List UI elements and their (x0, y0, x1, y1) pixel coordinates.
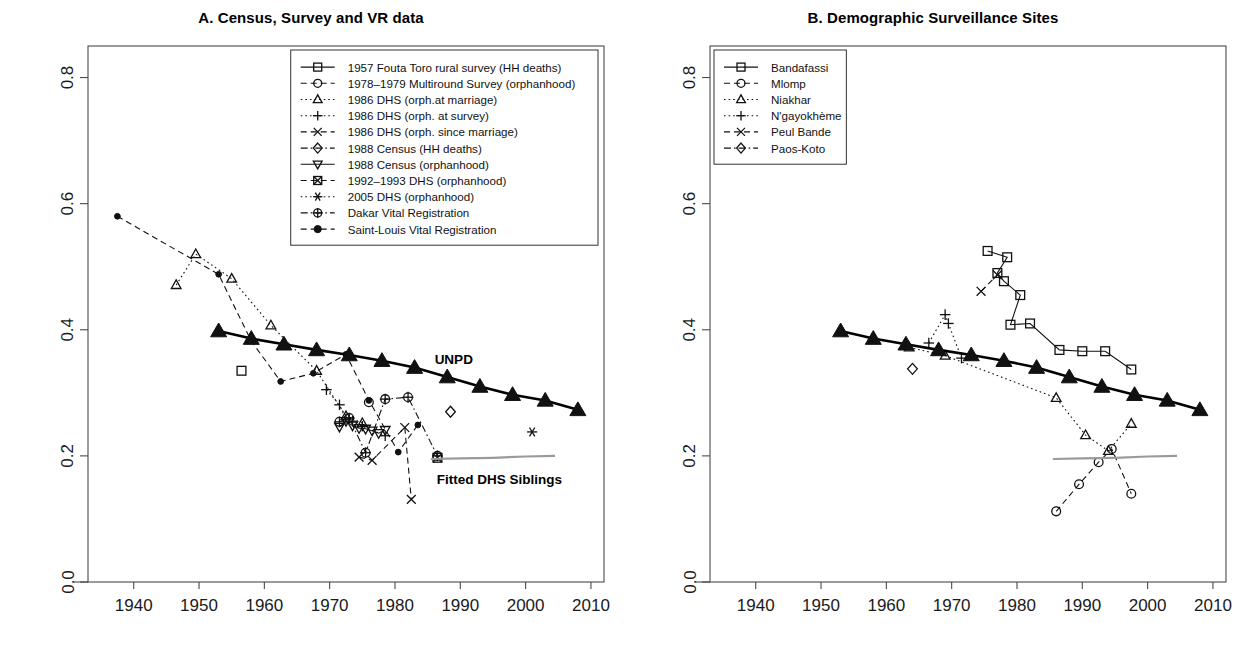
y-tick-label: 0.0 (681, 570, 700, 594)
series-paos-koto (908, 363, 918, 374)
panel-b: B. Demographic Surveillance Sites 194019… (622, 0, 1244, 657)
x-tick-label: 1940 (115, 596, 153, 615)
legend-item-label: Peul Bande (771, 125, 831, 138)
data-point-saint-louis-vital-registration (278, 379, 284, 385)
legend-item-label: 1988 Census (HH deaths) (348, 142, 482, 155)
y-tick-label: 0.8 (681, 66, 700, 90)
unpd-label: UNPD (435, 352, 474, 367)
series-unpd (211, 323, 586, 416)
data-point-1957-fouta-toro-rural-survey-hh-deaths (237, 366, 246, 375)
data-point-paos-koto (908, 363, 918, 374)
panel-a: A. Census, Survey and VR data 1940195019… (0, 0, 622, 657)
y-tick-label: 0.0 (59, 570, 78, 594)
y-tick-label: 0.2 (681, 444, 700, 468)
fitted-dhs-siblings-label: Fitted DHS Siblings (437, 472, 562, 487)
x-tick-label: 1990 (441, 596, 479, 615)
legend-item-label: 1992–1993 DHS (orphanhood) (348, 174, 507, 187)
panel-b-plot: 194019501960197019801990200020100.00.20.… (622, 0, 1244, 657)
x-tick-label: 2000 (507, 596, 545, 615)
legend: 1957 Fouta Toro rural survey (HH deaths)… (291, 50, 598, 245)
series-line (841, 331, 1200, 410)
series-unpd (833, 323, 1208, 416)
data-point-1986-dhs-orph-since-marriage (407, 495, 416, 504)
x-tick-label: 1940 (737, 596, 775, 615)
legend: BandafassiMlompNiakharN'gayokhèmePeul Ba… (714, 50, 846, 164)
legend-item-label: 2005 DHS (orphanhood) (348, 190, 474, 203)
legend-item-n-gayokh-me[interactable]: N'gayokhème (724, 109, 842, 122)
x-tick-label: 2010 (572, 596, 610, 615)
legend-key-marker (314, 226, 321, 233)
legend-item-label: Dakar Vital Registration (348, 206, 470, 219)
legend-item-label: Saint-Louis Vital Registration (348, 223, 497, 236)
data-point-saint-louis-vital-registration (216, 271, 222, 277)
legend-item-label: Paos-Koto (771, 142, 825, 155)
legend-item-label: 1988 Census (orphanhood) (348, 158, 489, 171)
x-tick-label: 1980 (376, 596, 414, 615)
x-tick-label: 2010 (1194, 596, 1232, 615)
x-tick-label: 1960 (867, 596, 905, 615)
y-tick-label: 0.4 (59, 318, 78, 342)
data-point-dakar-vital-registration (360, 447, 371, 458)
legend-item-label: Bandafassi (771, 61, 828, 74)
x-tick-label: 1960 (245, 596, 283, 615)
x-tick-label: 1970 (311, 596, 349, 615)
data-point-dakar-vital-registration (380, 394, 391, 405)
data-point-niakhar (1126, 419, 1136, 428)
legend-item-label: 1986 DHS (orph.at marriage) (348, 93, 498, 106)
x-tick-label: 2000 (1129, 596, 1167, 615)
data-point-peul-bande (977, 287, 986, 296)
series-mlomp (1052, 445, 1136, 516)
data-point-1986-dhs-orph-since-marriage (355, 453, 364, 462)
data-point-saint-louis-vital-registration (415, 422, 421, 428)
legend-item-label: 1957 Fouta Toro rural survey (HH deaths) (348, 61, 562, 74)
series-1986-dhs-orph-at-marriage (171, 249, 367, 427)
legend-item-label: N'gayokhème (771, 109, 842, 122)
data-point-saint-louis-vital-registration (366, 398, 372, 404)
data-point-saint-louis-vital-registration (310, 370, 316, 376)
y-tick-label: 0.6 (59, 192, 78, 216)
data-point-1986-dhs-orph-at-marriage (227, 274, 237, 283)
series-2005-dhs-orphanhood (527, 428, 537, 437)
series-line (117, 216, 417, 452)
x-tick-label: 1980 (998, 596, 1036, 615)
legend-item-label: 1986 DHS (orph. since marriage) (348, 125, 518, 138)
data-layer (115, 213, 586, 503)
data-point-saint-louis-vital-registration (115, 213, 121, 219)
y-tick-label: 0.8 (59, 66, 78, 90)
legend-item-label: Mlomp (771, 77, 806, 90)
x-tick-label: 1950 (180, 596, 218, 615)
figure-root: A. Census, Survey and VR data 1940195019… (0, 0, 1244, 657)
series-niakhar (904, 342, 1136, 454)
y-tick-label: 0.2 (59, 444, 78, 468)
series-line (431, 456, 555, 459)
y-tick-label: 0.6 (681, 192, 700, 216)
data-point-1988-census-hh-deaths (446, 406, 456, 417)
data-point-1986-dhs-orph-at-marriage (266, 320, 276, 329)
series-1957-fouta-toro-rural-survey-hh-deaths (237, 366, 246, 375)
x-tick-label: 1970 (933, 596, 971, 615)
legend-item-label: Niakhar (771, 93, 811, 106)
data-point-mlomp (1127, 489, 1136, 498)
legend-item-bandafassi[interactable]: Bandafassi (724, 61, 828, 74)
panel-a-plot: 194019501960197019801990200020100.00.20.… (0, 0, 622, 657)
data-point-1986-dhs-orph-since-marriage (368, 456, 377, 465)
data-point-2005-dhs-orphanhood (527, 428, 537, 437)
data-point-unpd (211, 323, 227, 337)
series-peul-bande (977, 271, 1002, 296)
series-1988-census-hh-deaths (446, 406, 456, 417)
legend-item-label: 1978–1979 Multiround Survey (orphanhood) (348, 77, 576, 90)
data-point-saint-louis-vital-registration (395, 449, 401, 455)
series-saint-louis-vital-registration (115, 213, 421, 455)
y-tick-label: 0.4 (681, 318, 700, 342)
data-point-dakar-vital-registration (403, 392, 414, 403)
x-tick-label: 1950 (802, 596, 840, 615)
series-bandafassi (983, 247, 1135, 374)
data-point-unpd (833, 323, 849, 337)
data-point-1986-dhs-orph-at-marriage (191, 249, 201, 258)
series-fitted-dhs-siblings (431, 456, 555, 459)
series-line (176, 254, 362, 423)
x-tick-label: 1990 (1063, 596, 1101, 615)
legend-item-label: 1986 DHS (orph. at survey) (348, 109, 489, 122)
data-layer (833, 247, 1208, 516)
